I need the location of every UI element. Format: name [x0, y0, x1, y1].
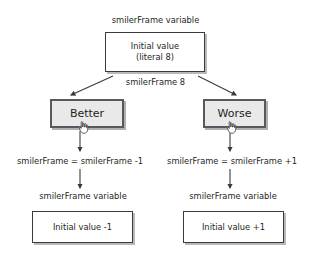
better-button-label: Better: [70, 107, 104, 120]
worse-button[interactable]: Worse: [203, 99, 266, 128]
diagram-canvas: smilerFrame variable Initial value (lite…: [0, 0, 311, 262]
label-equation-left: smilerFrame = smilerFrame -1: [5, 156, 155, 166]
result-box-decrement-label: Initial value -1: [53, 222, 112, 233]
label-equation-right: smilerFrame = smilerFrame +1: [157, 156, 307, 166]
label-middle-value: smilerFrame 8: [0, 77, 311, 87]
initial-value-box: Initial value (literal 8): [105, 32, 205, 72]
result-box-increment: Initial value +1: [183, 211, 284, 243]
worse-button-label: Worse: [218, 107, 252, 120]
label-variable-left: smilerFrame variable: [8, 191, 158, 201]
initial-value-line1: Initial value: [131, 41, 179, 52]
result-box-decrement: Initial value -1: [32, 211, 133, 243]
better-button[interactable]: Better: [50, 99, 124, 128]
initial-value-line2: (literal 8): [136, 52, 174, 63]
label-variable-right: smilerFrame variable: [158, 191, 308, 201]
result-box-increment-label: Initial value +1: [202, 222, 265, 233]
label-top-variable: smilerFrame variable: [0, 15, 311, 25]
